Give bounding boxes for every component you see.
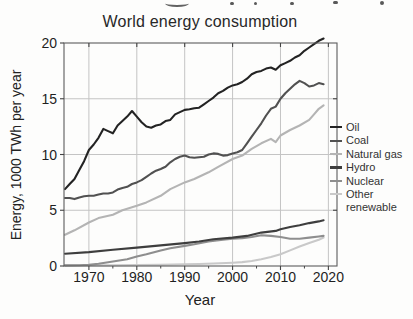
other-renewable-line-swatch (330, 193, 342, 195)
oil-line-swatch (330, 126, 342, 128)
x-tick-label-2010: 2010 (265, 269, 296, 285)
legend-item-other-renewable: Other renewable (330, 188, 402, 214)
y-tick-label-15: 15 (41, 91, 57, 107)
hydro-line-swatch (330, 166, 342, 168)
legend-item-natural-gas: Natural gas (330, 148, 402, 161)
chart-legend: Oil Coal Natural gas Hydro Nuclear Other… (330, 121, 402, 214)
x-tick-label-2000: 2000 (217, 269, 248, 285)
y-axis-label: Energy, 1000 TWh per year (8, 70, 24, 241)
legend-label: Other renewable (346, 188, 402, 214)
legend-item-hydro: Hydro (330, 161, 402, 174)
legend-item-coal: Coal (330, 134, 402, 147)
nuclear-line-swatch (330, 180, 342, 182)
coal-line-swatch (330, 140, 342, 142)
legend-label: Hydro (346, 161, 375, 174)
x-tick-label-1990: 1990 (169, 269, 200, 285)
x-tick-label-1980: 1980 (121, 269, 152, 285)
legend-label: Natural gas (346, 148, 402, 161)
series-line-oil (65, 39, 324, 190)
legend-item-nuclear: Nuclear (330, 175, 402, 188)
screenshot-root: World energy consumption 197019801990200… (0, 0, 413, 319)
legend-label: Coal (346, 134, 369, 147)
legend-item-oil: Oil (330, 121, 402, 134)
y-tick-label-20: 20 (41, 35, 57, 51)
series-line-natural-gas (65, 105, 324, 234)
x-tick-label-2020: 2020 (313, 269, 344, 285)
y-tick-label-5: 5 (49, 202, 57, 218)
y-tick-label-0: 0 (49, 258, 57, 274)
x-tick-label-1970: 1970 (73, 269, 104, 285)
y-tick-label-10: 10 (41, 147, 57, 163)
natural-gas-line-swatch (330, 153, 342, 155)
legend-label: Oil (346, 121, 359, 134)
legend-label: Nuclear (346, 175, 384, 188)
x-axis-label: Year (0, 291, 400, 308)
